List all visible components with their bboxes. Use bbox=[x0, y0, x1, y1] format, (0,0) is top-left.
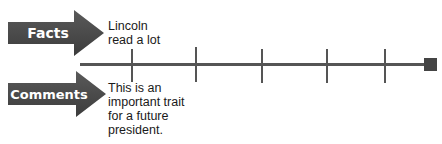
timeline-tick bbox=[261, 49, 263, 83]
timeline-tick bbox=[131, 49, 133, 82]
facts-note-line: Lincoln bbox=[108, 19, 160, 33]
comments-note: This is an important trait for a future … bbox=[108, 81, 184, 137]
timeline-tick bbox=[384, 49, 386, 83]
facts-note-line: read a lot bbox=[108, 33, 160, 47]
facts-label: Facts bbox=[8, 10, 88, 56]
timeline-tick bbox=[195, 47, 197, 82]
comments-note-line: important trait bbox=[108, 95, 184, 109]
facts-arrow: Facts bbox=[8, 10, 104, 56]
comments-note-line: This is an bbox=[108, 81, 184, 95]
timeline-end-square-icon bbox=[424, 58, 437, 71]
comments-note-line: president. bbox=[108, 123, 184, 137]
comments-note-line: for a future bbox=[108, 109, 184, 123]
comments-arrow: Comments bbox=[8, 71, 106, 117]
timeline-tick bbox=[326, 49, 328, 83]
comments-label: Comments bbox=[8, 71, 90, 117]
facts-note: Lincoln read a lot bbox=[108, 19, 160, 47]
